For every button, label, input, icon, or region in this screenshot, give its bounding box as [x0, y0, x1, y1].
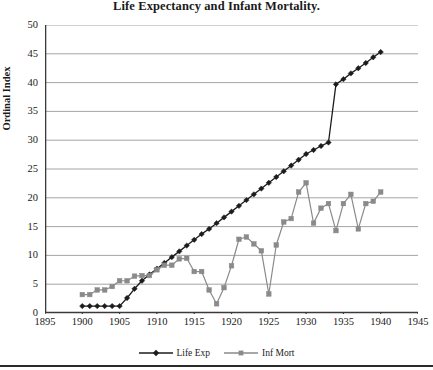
data-point	[170, 263, 175, 268]
diamond-marker-icon	[139, 348, 173, 358]
data-point	[140, 273, 145, 278]
data-point	[304, 181, 309, 186]
data-point	[311, 147, 316, 152]
data-point	[199, 269, 204, 274]
data-point	[87, 292, 92, 297]
data-point	[371, 199, 376, 204]
data-point	[162, 263, 167, 268]
data-point	[259, 248, 264, 253]
legend-label: Inf Mort	[262, 348, 294, 358]
x-tick-label-1910: 1910	[137, 316, 177, 327]
plot-area	[45, 25, 418, 313]
data-point	[102, 288, 107, 293]
bottom-divider	[0, 365, 433, 367]
data-point	[155, 268, 160, 273]
x-tick-label-1925: 1925	[249, 316, 289, 327]
x-tick-label-1905: 1905	[100, 316, 140, 327]
x-tick-label-1915: 1915	[174, 316, 214, 327]
chart-plot-svg	[45, 25, 418, 314]
data-point	[192, 269, 197, 274]
data-point	[326, 201, 331, 206]
chart-legend: Life ExpInf Mort	[0, 345, 433, 361]
data-point	[214, 301, 219, 306]
square-marker-icon	[224, 348, 258, 358]
gridlines	[45, 25, 418, 284]
data-point	[80, 292, 85, 297]
data-point	[356, 227, 361, 232]
x-axis-tick-labels: 1895190019051910191519201925193019351940…	[0, 316, 433, 334]
data-point	[296, 190, 301, 195]
data-point	[289, 216, 294, 221]
data-point	[244, 235, 249, 240]
y-tick-label-35: 35	[8, 106, 38, 116]
data-point	[177, 257, 182, 262]
chart-title: Life Expectancy and Infant Mortality.	[0, 0, 433, 14]
data-point	[102, 303, 107, 308]
data-point	[87, 303, 92, 308]
y-tick-label-50: 50	[8, 20, 38, 30]
data-point	[349, 192, 354, 197]
data-point	[281, 220, 286, 225]
y-tick-label-15: 15	[8, 222, 38, 232]
x-tick-label-1900: 1900	[62, 316, 102, 327]
data-point	[222, 285, 227, 290]
data-point	[110, 284, 115, 289]
data-point	[80, 303, 85, 308]
x-tick-label-1945: 1945	[398, 316, 433, 327]
y-tick-label-5: 5	[8, 279, 38, 289]
data-point	[334, 228, 339, 233]
x-tick-label-1940: 1940	[361, 316, 401, 327]
data-point	[237, 237, 242, 242]
chart-axes	[45, 25, 418, 314]
data-point	[95, 303, 100, 308]
data-point	[363, 201, 368, 206]
legend-entry-life-exp[interactable]: Life Exp	[139, 348, 211, 358]
y-tick-label-40: 40	[8, 78, 38, 88]
y-tick-label-10: 10	[8, 250, 38, 260]
x-tick-label-1935: 1935	[323, 316, 363, 327]
data-point	[95, 288, 100, 293]
series-life-exp	[80, 49, 384, 308]
legend-label: Life Exp	[177, 348, 211, 358]
y-tick-label-20: 20	[8, 193, 38, 203]
data-point	[319, 206, 324, 211]
data-point	[207, 288, 212, 293]
y-tick-label-45: 45	[8, 49, 38, 59]
x-tick-label-1930: 1930	[286, 316, 326, 327]
data-point	[109, 303, 114, 308]
x-tick-label-1920: 1920	[212, 316, 252, 327]
data-point	[125, 278, 130, 283]
data-point	[311, 221, 316, 226]
legend-entry-inf-mort[interactable]: Inf Mort	[224, 348, 294, 358]
y-tick-label-30: 30	[8, 135, 38, 145]
data-point	[147, 273, 152, 278]
data-point	[274, 243, 279, 248]
data-point	[378, 190, 383, 195]
data-point	[184, 256, 189, 261]
chart-container: Life Expectancy and Infant Mortality. Or…	[0, 0, 433, 370]
data-point	[252, 242, 257, 247]
y-axis-tick-labels: 05101520253035404550	[4, 0, 38, 340]
y-tick-label-25: 25	[8, 164, 38, 174]
data-point	[132, 274, 137, 279]
series-inf-mort	[80, 181, 383, 307]
data-point	[117, 278, 122, 283]
data-point	[267, 292, 272, 297]
x-tick-label-1895: 1895	[25, 316, 65, 327]
data-point	[318, 143, 323, 148]
data-point	[341, 201, 346, 206]
data-point	[229, 263, 234, 268]
